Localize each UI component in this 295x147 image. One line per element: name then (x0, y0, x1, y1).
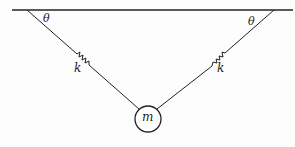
spring-mass-diagram: θ θ k k m (0, 0, 295, 147)
theta-right-label: θ (248, 16, 255, 27)
mass-label: m (142, 111, 153, 123)
spring-right-label: k (217, 62, 224, 74)
spring-left-label: k (74, 62, 81, 74)
theta-left-label: θ (43, 13, 50, 24)
right-spring (157, 10, 274, 109)
